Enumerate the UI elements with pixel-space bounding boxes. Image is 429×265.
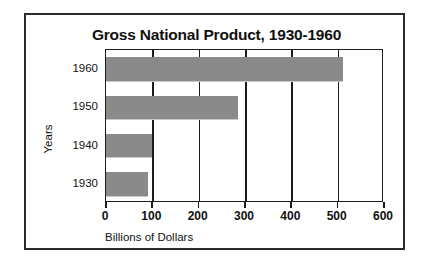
y-tick-label: 1960 xyxy=(72,63,98,75)
y-tick-label: 1940 xyxy=(72,140,98,152)
bars-layer: 1960195019401930 xyxy=(106,50,382,201)
x-tick xyxy=(383,202,385,208)
figure-frame: Gross National Product, 1930-1960 Years … xyxy=(24,13,405,250)
x-tick xyxy=(244,202,246,208)
plot-area: 1960195019401930 xyxy=(105,49,383,202)
x-axis-title: Billions of Dollars xyxy=(105,231,193,243)
x-tick xyxy=(337,202,339,208)
x-tick-label: 300 xyxy=(234,209,254,223)
x-tick-label: 500 xyxy=(327,209,347,223)
y-tick-label: 1950 xyxy=(72,102,98,114)
x-tick-label: 600 xyxy=(373,209,393,223)
x-tick xyxy=(151,202,153,208)
x-tick xyxy=(290,202,292,208)
x-tick-label: 100 xyxy=(141,209,161,223)
chart-title: Gross National Product, 1930-1960 xyxy=(26,26,407,44)
x-tick-label: 200 xyxy=(188,209,208,223)
bar xyxy=(106,134,152,158)
bar xyxy=(106,57,343,81)
y-axis-title: Years xyxy=(42,109,54,169)
x-tick-label: 0 xyxy=(102,209,109,223)
y-tick-label: 1930 xyxy=(72,178,98,190)
bar xyxy=(106,172,148,196)
x-tick-label: 400 xyxy=(280,209,300,223)
bar xyxy=(106,96,238,120)
x-tick xyxy=(105,202,107,208)
x-tick xyxy=(198,202,200,208)
